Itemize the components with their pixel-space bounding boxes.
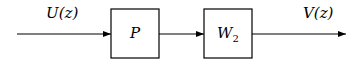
block-p-label: P — [111, 24, 159, 42]
output-signal-label: V(z) — [303, 4, 333, 22]
block-w2-subscript: 2 — [233, 33, 239, 44]
block-w2-text: W — [217, 24, 232, 42]
block-w2-label: W2 — [204, 24, 252, 44]
block-p-text: P — [130, 24, 140, 42]
input-signal-label: U(z) — [46, 4, 78, 22]
